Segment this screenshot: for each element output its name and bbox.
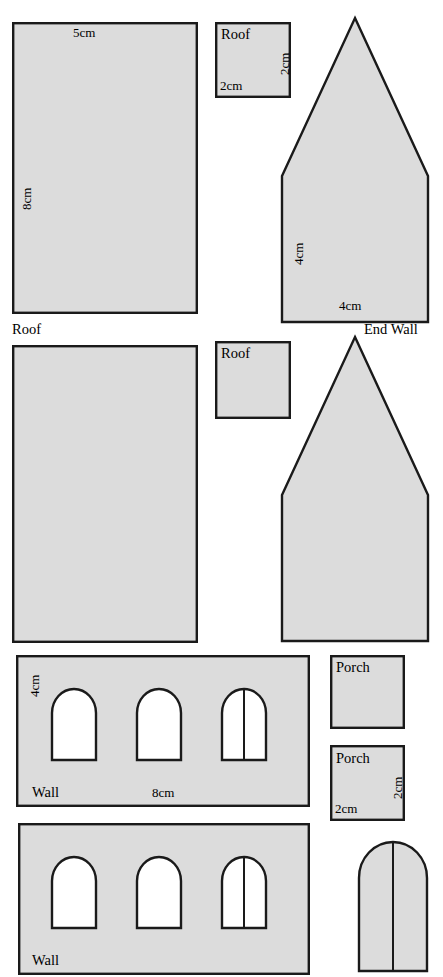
piece-end-wall-mid[interactable]: [279, 335, 432, 645]
dimension-label-wall-top-width: 8cm: [152, 786, 174, 799]
dimension-label-roof-large-top-height: 8cm: [20, 188, 33, 210]
piece-wall-bottom[interactable]: [18, 823, 310, 975]
piece-door-arch[interactable]: [357, 840, 429, 974]
piece-end-wall-top[interactable]: [279, 16, 432, 326]
dimension-label-roof-small-top-width: 2cm: [220, 79, 242, 92]
piece-roof-large-mid[interactable]: [12, 345, 198, 643]
dimension-label-porch-lower-width: 2cm: [335, 802, 357, 815]
dimension-label-wall-top-height: 4cm: [28, 675, 41, 697]
piece-label-wall-bottom: Wall: [32, 953, 59, 968]
dimension-label-porch-lower-height: 2cm: [391, 777, 404, 799]
piece-label-porch-upper: Porch: [336, 660, 370, 675]
dimension-label-end-wall-top-height: 4cm: [292, 243, 305, 265]
piece-label-wall-top: Wall: [32, 785, 59, 800]
dimension-label-end-wall-top-width: 4cm: [339, 299, 361, 312]
dimension-label-roof-large-top-width: 5cm: [73, 26, 95, 39]
piece-label-porch-lower: Porch: [336, 751, 370, 766]
piece-roof-large-top[interactable]: [12, 22, 198, 314]
piece-label-roof-large-top: Roof: [12, 322, 41, 337]
piece-label-roof-small-top: Roof: [221, 27, 250, 42]
piece-label-roof-small-mid: Roof: [221, 346, 250, 361]
template-sheet: 5cm 8cm Roof Roof 2cm 2cm 4cm 4cm End Wa…: [0, 0, 443, 977]
